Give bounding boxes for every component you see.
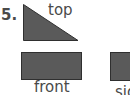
top-view-label: top — [48, 1, 73, 19]
side-view-square — [111, 53, 131, 81]
front-view-label: front — [34, 78, 70, 95]
side-view-label: side — [115, 83, 130, 95]
front-view-rectangle — [22, 53, 82, 80]
